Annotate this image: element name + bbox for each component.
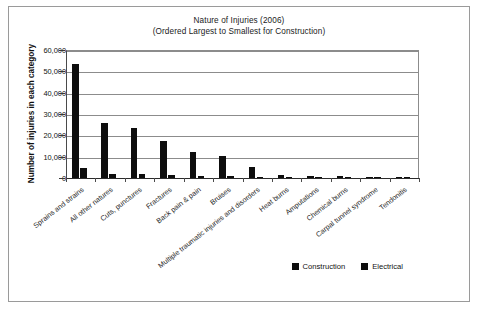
bar-group xyxy=(131,50,148,178)
x-tick-mark xyxy=(243,178,244,182)
bar-construction xyxy=(131,128,138,178)
bar-construction xyxy=(101,123,108,178)
bar-group xyxy=(337,50,354,178)
y-tick-mark xyxy=(59,157,65,158)
x-tick-mark xyxy=(154,178,155,182)
x-tick-label: Bruises xyxy=(208,185,232,207)
bar-group xyxy=(249,50,266,178)
bar-group xyxy=(72,50,89,178)
bar-construction xyxy=(190,152,197,178)
y-axis-ticks: 010,00020,00030,00040,00050,00060,000 xyxy=(9,7,66,207)
legend-swatch-icon xyxy=(292,263,299,270)
chart-frame: Nature of Injuries (2006) (Ordered Large… xyxy=(8,6,470,302)
y-tick-mark xyxy=(59,50,65,51)
plot-area xyxy=(66,50,419,178)
legend-label: Construction xyxy=(303,262,346,271)
legend-item-electrical[interactable]: Electrical xyxy=(361,262,403,271)
legend-swatch-icon xyxy=(361,263,368,270)
x-tick-label: Tendonitis xyxy=(378,185,409,212)
bar-construction xyxy=(249,167,256,178)
bar-group xyxy=(219,50,236,178)
chart-subtitle: (Ordered Largest to Smallest for Constru… xyxy=(9,26,469,37)
x-tick-mark xyxy=(272,178,273,182)
x-tick-mark xyxy=(419,178,420,182)
legend-item-construction[interactable]: Construction xyxy=(292,262,346,271)
chart-screenshot: Nature of Injuries (2006) (Ordered Large… xyxy=(0,0,478,310)
legend-label: Electrical xyxy=(372,262,403,271)
y-tick-mark xyxy=(59,93,65,94)
chart-legend: ConstructionElectrical xyxy=(9,262,469,271)
x-tick-mark xyxy=(66,178,67,182)
bar-electrical xyxy=(80,168,87,178)
bar-construction xyxy=(160,141,167,178)
bar-group xyxy=(366,50,383,178)
y-tick-mark xyxy=(59,71,65,72)
x-tick-mark xyxy=(184,178,185,182)
bar-group xyxy=(101,50,118,178)
bar-group xyxy=(307,50,324,178)
chart-title: Nature of Injuries (2006) xyxy=(9,15,469,26)
y-tick-mark xyxy=(59,114,65,115)
x-tick-mark xyxy=(390,178,391,182)
chart-title-block: Nature of Injuries (2006) (Ordered Large… xyxy=(9,15,469,37)
y-tick-mark xyxy=(59,135,65,136)
x-tick-mark xyxy=(95,178,96,182)
y-tick-mark xyxy=(59,178,65,179)
bar-group xyxy=(190,50,207,178)
bar-construction xyxy=(72,64,79,178)
bar-construction xyxy=(219,156,226,178)
x-tick-mark xyxy=(360,178,361,182)
x-tick-mark xyxy=(331,178,332,182)
bar-group xyxy=(396,50,413,178)
bar-group xyxy=(160,50,177,178)
x-tick-mark xyxy=(125,178,126,182)
bar-group xyxy=(278,50,295,178)
x-tick-mark xyxy=(301,178,302,182)
x-tick-mark xyxy=(213,178,214,182)
